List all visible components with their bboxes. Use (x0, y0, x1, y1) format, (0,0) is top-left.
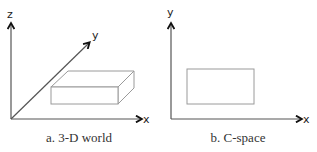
x-axis-label: x (143, 113, 150, 126)
panel-3d-world: z x y a. 3-D world (7, 8, 150, 145)
y-axis-label: y (92, 29, 99, 42)
x-axis-label: x (303, 113, 310, 126)
caption-c-space: b. C-space (211, 130, 266, 145)
diagram-canvas: z x y a. 3-D world y x b. C-space (0, 0, 317, 152)
c-space-rectangle (187, 69, 254, 104)
y-axis-label: y (167, 6, 174, 19)
z-axis-label: z (7, 8, 13, 21)
box-3d (51, 71, 134, 104)
panel-c-space: y x b. C-space (167, 6, 310, 145)
caption-3d-world: a. 3-D world (46, 130, 113, 145)
